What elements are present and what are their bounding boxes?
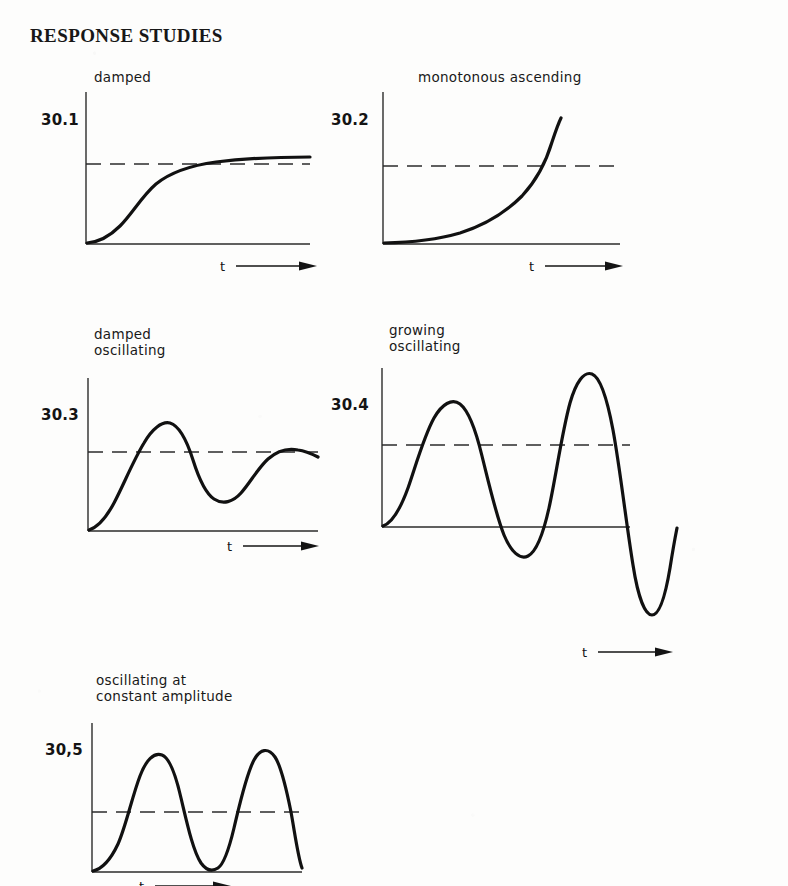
panel-30-2-number: 30.2: [331, 111, 369, 129]
panel-30-2-plot: t: [330, 60, 670, 290]
page-title: RESPONSE STUDIES: [30, 25, 223, 47]
panel-30-5-caption-line2: constant amplitude: [96, 688, 233, 704]
t-axis-arrow: [545, 262, 623, 271]
panel-30-4-caption-line2: oscillating: [389, 338, 461, 354]
panel-30-3-caption-line2: oscillating: [94, 342, 166, 358]
t-axis-arrow: [155, 882, 231, 886]
panel-30-2: monotonous ascending 30.2 t: [330, 60, 670, 290]
t-axis-arrow: [598, 648, 673, 657]
t-axis-label: t: [529, 259, 534, 274]
t-axis-label: t: [220, 259, 225, 274]
t-axis-label: t: [227, 539, 232, 554]
panel-30-4-caption-line1: growing: [389, 322, 445, 338]
curve-constant-amplitude: [93, 751, 302, 871]
panel-30-1-caption: damped: [94, 69, 151, 85]
curve-growing-oscillating: [383, 374, 677, 615]
panel-30-3-number: 30.3: [41, 406, 79, 424]
panel-30-1-plot: t: [0, 60, 340, 290]
panel-30-4: growing oscillating 30.4 t: [330, 310, 690, 680]
t-axis-arrow: [243, 542, 319, 551]
panel-30-2-caption: monotonous ascending: [418, 69, 582, 85]
panel-30-3-plot: t: [0, 320, 340, 570]
panel-30-5-caption-line1: oscillating at: [96, 672, 186, 688]
panel-30-1: damped 30.1 t: [0, 60, 340, 290]
curve-damped-oscillating: [89, 423, 318, 530]
t-axis-label: t: [139, 879, 144, 886]
panel-30-3: damped oscillating 30.3 t: [0, 320, 340, 570]
curve-damped: [87, 157, 310, 243]
panel-30-4-plot: t: [330, 310, 690, 680]
panel-30-4-number: 30.4: [331, 396, 369, 414]
t-axis-arrow: [236, 262, 317, 271]
panel-30-5: oscillating at constant amplitude 30,5 t: [0, 660, 360, 886]
panel-30-3-caption-line1: damped: [94, 326, 151, 342]
figure-page: RESPONSE STUDIES damped 30.1 t monotonou…: [0, 0, 788, 886]
curve-monotonous-ascending: [384, 118, 561, 243]
panel-30-1-number: 30.1: [41, 111, 79, 129]
t-axis-label: t: [582, 645, 587, 660]
panel-30-5-number: 30,5: [45, 741, 83, 759]
